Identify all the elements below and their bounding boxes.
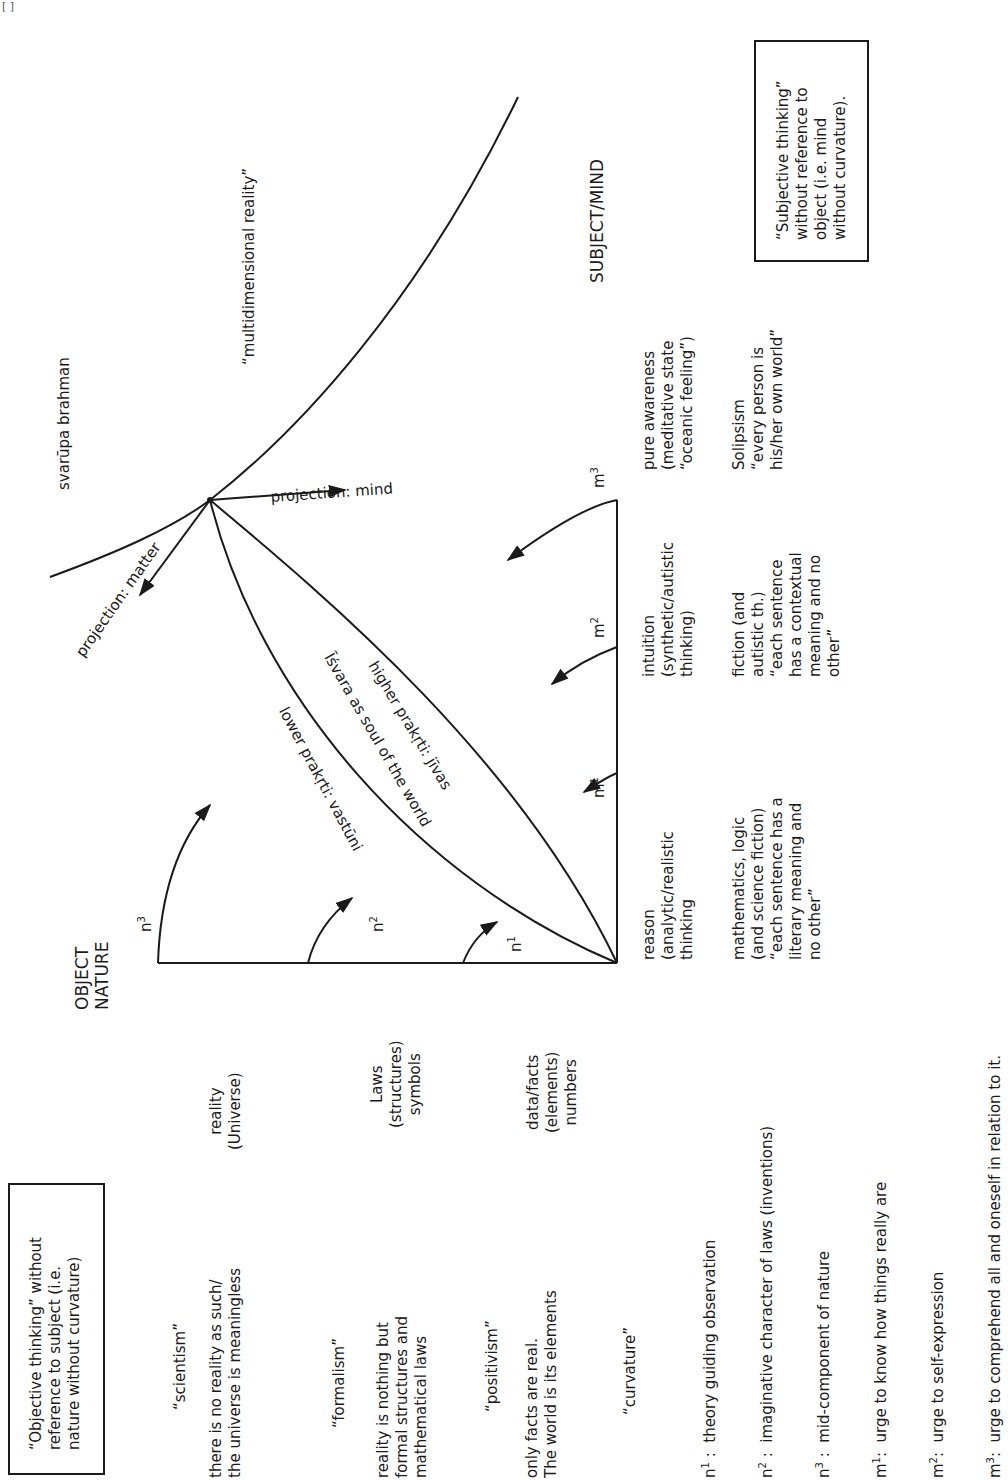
multidimensional-reality-label: “multidimensional reality” — [240, 168, 259, 365]
svarupa-brahman-label: svarūpa brahman — [55, 357, 74, 490]
subjective-thinking-text: “Subjective thinking” without reference … — [774, 80, 850, 240]
m1-label: m1 — [590, 777, 609, 798]
subject-mind-label: SUBJECT/MIND — [587, 159, 607, 283]
curvature-item-m2: m2: urge to self-expression — [929, 1055, 948, 1478]
positivism-claim: only facts are real. The world is its el… — [523, 1290, 561, 1478]
m3-label: m3 — [590, 467, 609, 488]
n2-label: n2 — [369, 916, 388, 932]
m2-arc — [552, 647, 617, 684]
curvature-item-n3: n3 : mid-component of nature — [815, 1055, 834, 1478]
objective-thinking-text: “Objective thinking” without reference t… — [27, 1237, 84, 1450]
reason-form-label: mathematics, logic (and science fiction)… — [730, 797, 825, 960]
solipsism-label: Solipsism “every person is his/her own w… — [730, 329, 787, 470]
n3-label: n3 — [137, 916, 156, 932]
n1-arc — [463, 922, 497, 963]
curvature-legend: n1 : theory guiding observation n2 : ima… — [663, 1055, 1008, 1478]
curvature-item-n1: n1 : theory guiding observation — [701, 1055, 720, 1478]
curvature-item-m1: m1: urge to know how things really are — [872, 1055, 891, 1478]
m2-label: m2 — [590, 617, 609, 638]
object-nature-label: OBJECT NATURE — [72, 942, 112, 1010]
positivism-label: “positivism” — [483, 1320, 502, 1412]
laws-label: Laws (structures) symbols — [368, 1040, 425, 1128]
curvature-title: “curvature” — [621, 1327, 640, 1415]
reason-label: reason (analytic/realistic thinking — [640, 831, 697, 960]
formalism-label: “formalism” — [330, 1338, 349, 1428]
data-facts-label: data/facts (elements) numbers — [524, 1052, 581, 1133]
m3-arc — [508, 500, 617, 560]
intuition-label: intuition (synthetic/autistic thinking) — [640, 542, 697, 677]
curvature-item-n2: n2 : imaginative character of laws (inve… — [758, 1055, 777, 1478]
scientism-label: “scientism” — [171, 1323, 190, 1410]
pure-awareness-label: pure awareness (meditative state “oceani… — [640, 336, 697, 470]
scientism-claim: there is no reality as such/ the univers… — [207, 1268, 245, 1478]
curvature-item-m3: m3: urge to comprehend all and oneself i… — [986, 1055, 1005, 1478]
formalism-claim: reality is nothing but formal structures… — [374, 1316, 431, 1478]
n1-label: n1 — [507, 936, 526, 952]
reality-universe-label: reality (Universe) — [207, 1072, 245, 1150]
n3-arc — [158, 805, 210, 963]
intuition-form-label: fiction (and autistic th.) “each sentenc… — [730, 552, 844, 677]
n2-arc — [308, 898, 352, 963]
